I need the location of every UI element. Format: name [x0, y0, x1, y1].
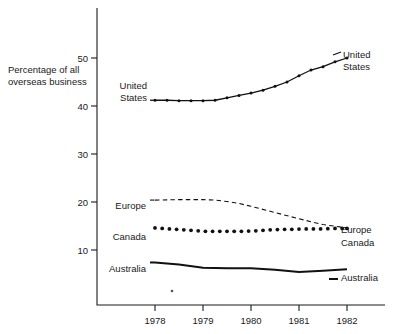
- data-point-canada: [168, 227, 172, 231]
- series-label-us-right-line1: United: [343, 49, 370, 60]
- series-label-australia-left: Australia: [109, 263, 147, 274]
- data-point-canada: [240, 229, 244, 233]
- series-label-us-left-line1: United: [120, 80, 147, 91]
- data-point-united-states: [334, 60, 337, 63]
- data-point-canada: [254, 229, 258, 233]
- series-label-europe-left: Europe: [115, 200, 146, 211]
- data-point-canada: [333, 227, 337, 231]
- data-point-canada: [211, 229, 215, 233]
- series-label-europe-right: Europe: [341, 224, 372, 235]
- data-point-united-states: [226, 96, 229, 99]
- chart-container: Percentage of all overseas business 50 4…: [0, 0, 396, 334]
- series-label-australia-right: Australia: [341, 272, 379, 283]
- data-point-canada: [261, 228, 265, 232]
- data-point-united-states: [166, 99, 169, 102]
- data-point-canada: [312, 227, 316, 231]
- data-point-canada: [276, 228, 280, 232]
- data-point-canada: [326, 227, 330, 231]
- data-point-united-states: [286, 81, 289, 84]
- data-point-united-states: [178, 99, 181, 102]
- x-tick-label: 1978: [144, 315, 165, 326]
- data-point-canada: [160, 227, 164, 231]
- x-tick-label: 1979: [192, 315, 213, 326]
- data-point-canada: [225, 229, 229, 233]
- data-point-canada: [175, 227, 179, 231]
- data-point-canada: [204, 229, 208, 233]
- series-label-us-right-line2: States: [343, 61, 370, 72]
- data-point-canada: [304, 227, 308, 231]
- data-point-canada: [319, 227, 323, 231]
- data-point-united-states: [274, 85, 277, 88]
- y-tick-label: 30: [77, 149, 88, 160]
- data-point-united-states: [250, 92, 253, 95]
- data-point-canada: [297, 227, 301, 231]
- data-point-canada: [290, 227, 294, 231]
- x-tick-label: 1981: [288, 315, 309, 326]
- data-point-canada: [232, 229, 236, 233]
- series-label-us-left-line2: States: [120, 92, 147, 103]
- y-tick-label: 40: [77, 101, 88, 112]
- data-point-canada: [153, 226, 157, 230]
- x-tick-label: 1982: [336, 315, 357, 326]
- y-axis-title-line1: Percentage of all: [8, 64, 79, 75]
- data-point-united-states: [190, 99, 193, 102]
- data-point-united-states: [310, 69, 313, 72]
- data-point-canada: [247, 229, 251, 233]
- series-label-canada-right: Canada: [341, 237, 375, 248]
- y-tick-label: 50: [77, 53, 88, 64]
- data-point-canada: [182, 228, 186, 232]
- data-point-canada: [268, 228, 272, 232]
- x-tick-label: 1980: [240, 315, 261, 326]
- data-point-canada: [196, 229, 200, 233]
- data-point-canada: [218, 229, 222, 233]
- data-point-canada: [283, 227, 287, 231]
- data-point-united-states: [298, 74, 301, 77]
- leader-line-us: [333, 52, 341, 55]
- axis-lines: [97, 8, 385, 305]
- series-label-canada-left: Canada: [113, 231, 147, 242]
- x-axis-ticks: 1978 1979 1980 1981 1982: [144, 305, 357, 326]
- data-point-canada: [189, 228, 193, 232]
- y-tick-label: 20: [77, 197, 88, 208]
- data-point-united-states: [214, 99, 217, 102]
- data-point-united-states: [202, 99, 205, 102]
- line-chart: Percentage of all overseas business 50 4…: [0, 0, 396, 334]
- y-axis-title-line2: overseas business: [8, 76, 87, 87]
- data-point-united-states: [322, 65, 325, 68]
- series-path-australia: [155, 262, 347, 272]
- data-point-united-states: [238, 94, 241, 97]
- series-path-europe: [155, 200, 347, 228]
- y-tick-label: 10: [77, 245, 88, 256]
- series-layer: [150, 57, 349, 273]
- stray-speck: [171, 290, 174, 293]
- data-point-united-states: [262, 89, 265, 92]
